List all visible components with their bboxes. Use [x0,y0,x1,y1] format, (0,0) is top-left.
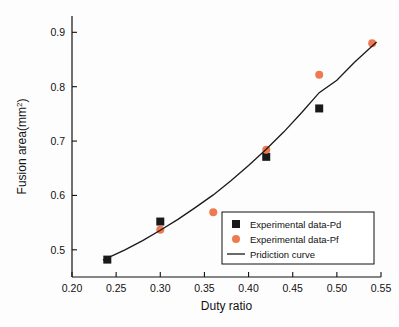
legend-label: Experimental data-Pf [250,234,339,245]
data-point-pd [156,218,164,226]
fusion-area-vs-duty-ratio-chart: 0.200.250.300.350.400.450.500.550.50.60.… [0,0,399,327]
x-tick-label: 0.45 [282,282,303,294]
y-tick-label: 0.8 [50,81,65,93]
data-point-pd [262,153,270,161]
x-tick-label: 0.35 [194,282,215,294]
legend-marker-square [232,220,240,228]
y-axis-title: Fusion area(mm2) [15,99,30,195]
data-point-pf [209,208,217,216]
legend-marker-circle [232,235,240,243]
y-tick-label: 0.7 [50,135,65,147]
y-tick-label: 0.5 [50,244,65,256]
data-point-pf [315,71,323,79]
x-tick-label: 0.20 [62,282,83,294]
data-point-pd [315,104,323,112]
x-tick-label: 0.25 [106,282,127,294]
axis-titles: Duty ratioFusion area(mm2) [15,99,253,313]
x-axis-title: Duty ratio [201,299,253,313]
x-tick-label: 0.50 [327,282,348,294]
legend-label: Experimental data-Pd [250,219,341,230]
legend-label: Pridiction curve [250,249,315,260]
svg-text:Fusion area(mm2): Fusion area(mm2) [15,99,30,195]
x-tick-label: 0.40 [238,282,259,294]
chart-legend: Experimental data-PdExperimental data-Pf… [222,212,374,264]
x-tick-label: 0.30 [150,282,171,294]
y-tick-label: 0.9 [50,26,65,38]
chart-container: 0.200.250.300.350.400.450.500.550.50.60.… [0,0,399,327]
y-tick-label: 0.6 [50,189,65,201]
x-tick-label: 0.55 [371,282,392,294]
